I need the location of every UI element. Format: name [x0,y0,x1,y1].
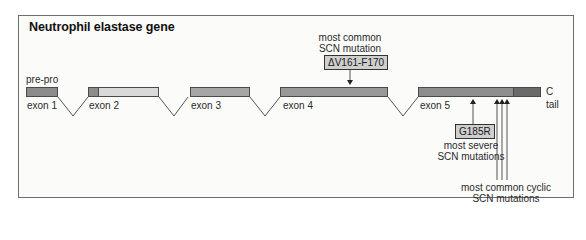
common-mutation-box: ΔV161-F170 [324,55,388,70]
c-tail-block [513,87,541,97]
cyclic-mutation-line2: SCN mutations [456,193,556,204]
common-mutation-line1: most common [310,32,390,43]
arrow-up-icon [499,99,505,104]
exon-1-block [26,87,58,97]
exon-2-label: exon 2 [89,100,119,111]
exon-1-label: exon 1 [27,100,57,111]
exon-4-label: exon 4 [283,100,313,111]
exon-3-block [190,87,250,97]
exon-3-label: exon 3 [191,100,221,111]
exon-2-block [88,87,159,97]
c-tail-label-line2: tail [546,99,559,110]
severe-mutation-line1: most severe [430,140,512,151]
exon-4-block [280,87,388,97]
arrow-up-icon [504,99,510,104]
arrow-down-icon [347,80,353,85]
c-tail-label-line1: C [546,86,553,97]
severe-mutation-line2: SCN mutations [430,151,512,162]
common-mutation-line2: SCN mutation [310,43,390,54]
exon-2-prepro-segment [89,88,99,96]
arrow-up-icon [494,99,500,104]
arrow-up-icon [470,99,476,104]
pre-pro-label: pre-pro [26,74,58,85]
severe-mutation-box: G185R [455,124,495,139]
exon-5-label: exon 5 [420,100,450,111]
exon-5-block [418,87,514,97]
cyclic-mutation-line1: most common cyclic [456,182,556,193]
